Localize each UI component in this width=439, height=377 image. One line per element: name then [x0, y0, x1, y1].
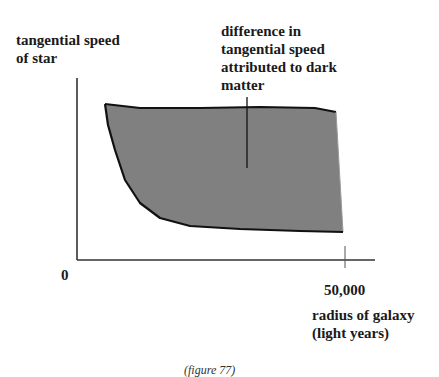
- x-axis-label-line1: radius of galaxy: [312, 306, 415, 324]
- x-tick-label-max: 50,000: [324, 281, 365, 299]
- figure-caption: (figure 77): [184, 363, 235, 377]
- x-axis-label-line2: (light years): [312, 324, 415, 342]
- dark-matter-shaded-region: [105, 104, 343, 232]
- origin-label: 0: [61, 266, 69, 284]
- x-axis-label: radius of galaxy (light years): [312, 306, 415, 342]
